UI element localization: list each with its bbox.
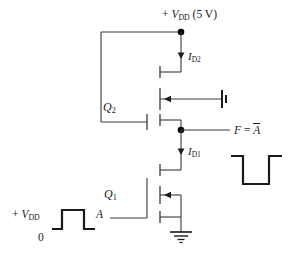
transistor-q2 <box>147 66 226 130</box>
q1-subscript: 1 <box>113 193 117 202</box>
supply-subscript: DD <box>178 13 189 22</box>
transistor-label-q1: Q1 <box>104 188 117 200</box>
output-node-group <box>178 127 230 170</box>
supply-voltage-label: + VDD (5 V) <box>162 9 217 21</box>
output-function-label: F = A <box>234 123 260 137</box>
current-label-id2: ID2 <box>188 51 201 62</box>
output-prefix: F <box>234 124 241 136</box>
transistor-q1 <box>147 164 181 232</box>
current-label-id1: ID1 <box>188 146 201 157</box>
supply-value: (5 V) <box>193 8 217 20</box>
q1-symbol: Q <box>104 187 113 201</box>
q2-body-arrow <box>164 96 171 102</box>
current-arrow-id2 <box>178 53 185 60</box>
input-waveform-A <box>52 210 95 229</box>
output-operand-negated: A <box>253 123 260 136</box>
ground-symbol <box>170 232 192 243</box>
current-id2-subscript: D2 <box>192 55 201 64</box>
output-waveform-F <box>231 156 282 184</box>
transistor-label-q2: Q2 <box>103 101 116 113</box>
input-node-label: A <box>96 209 103 221</box>
q2-symbol: Q <box>103 100 112 114</box>
current-id1-subscript: D1 <box>192 150 201 159</box>
current-arrow-id1 <box>178 149 185 156</box>
circuit-diagram-canvas: + VDD (5 V) ID2 Q2 F = A ID1 Q1 + VDD 0 … <box>0 0 294 257</box>
input-low-level-label: 0 <box>38 232 44 244</box>
input-high-subscript: DD <box>28 213 39 222</box>
input-high-level-label: + VDD <box>12 209 40 221</box>
q2-subscript: 2 <box>112 106 116 115</box>
q1-body-arrow <box>164 192 171 198</box>
